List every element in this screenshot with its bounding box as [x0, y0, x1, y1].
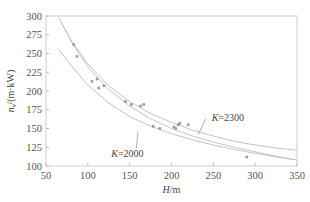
- data-point: [91, 80, 94, 83]
- data-point: [72, 43, 75, 46]
- data-point: [187, 123, 190, 126]
- data-point: [152, 125, 155, 128]
- y-tick-label: 225: [26, 67, 42, 78]
- k2000-leader: [136, 132, 138, 149]
- data-point: [174, 127, 177, 130]
- k2300-leader: [198, 119, 206, 135]
- y-tick-label: 175: [26, 104, 42, 115]
- data-point: [179, 122, 182, 125]
- data-point: [124, 100, 127, 103]
- k2000-label: K=2000: [110, 148, 143, 159]
- data-point: [102, 84, 105, 87]
- y-axis-label: ns/(m·kW): [5, 70, 18, 113]
- data-point: [76, 55, 79, 58]
- y-tick-label: 125: [26, 142, 42, 153]
- data-point: [139, 105, 142, 108]
- x-tick-label: 50: [41, 170, 52, 181]
- y-tick-label: 200: [26, 86, 42, 97]
- y-tick-label: 100: [26, 161, 42, 172]
- data-point: [246, 156, 249, 159]
- x-tick-label: 300: [247, 170, 263, 181]
- x-axis-label: H/m: [162, 184, 181, 195]
- data-point: [143, 103, 146, 106]
- k2300-label: K=2300: [211, 112, 244, 123]
- data-point: [130, 103, 133, 106]
- x-tick-label: 200: [164, 170, 180, 181]
- chart: 5010015020025030035010012515017520022525…: [0, 0, 310, 202]
- x-tick-label: 250: [205, 170, 221, 181]
- data-point: [96, 78, 99, 81]
- y-tick-label: 150: [26, 123, 42, 134]
- x-tick-label: 100: [80, 170, 96, 181]
- data-point: [97, 87, 100, 90]
- curve-middle: [61, 22, 297, 160]
- curve-k-2000: [59, 49, 297, 160]
- data-point: [158, 127, 161, 130]
- y-tick-label: 250: [26, 48, 42, 59]
- y-tick-label: 275: [26, 29, 42, 40]
- plot-frame: [46, 16, 297, 166]
- y-tick-label: 300: [26, 11, 42, 22]
- x-tick-label: 350: [289, 170, 305, 181]
- x-tick-label: 150: [122, 170, 138, 181]
